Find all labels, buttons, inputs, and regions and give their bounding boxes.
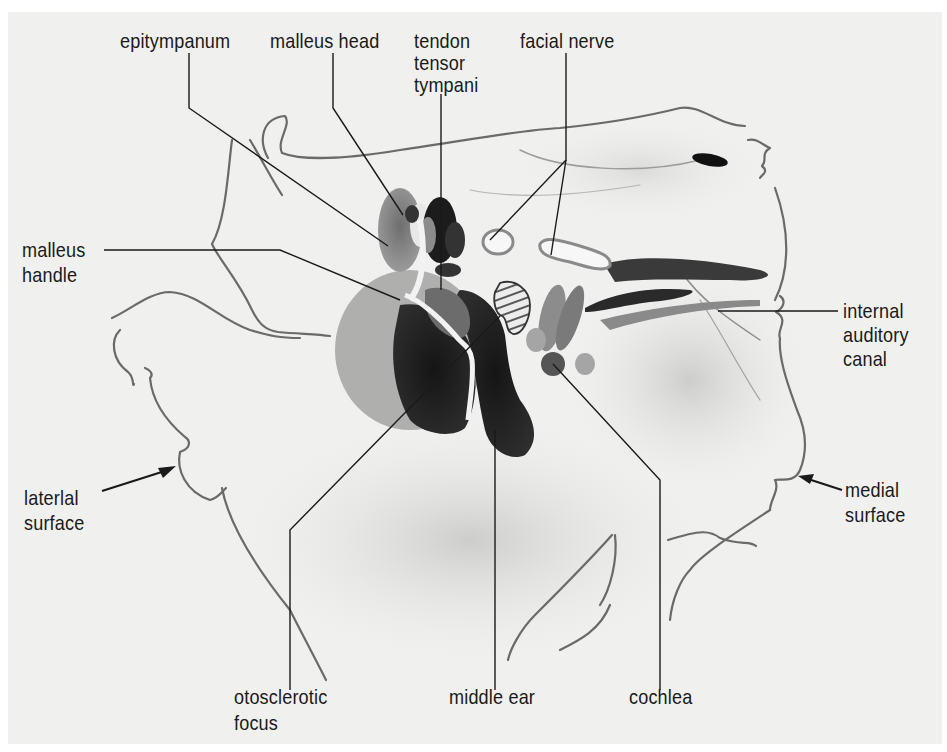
label-internal-auditory-canal-line3: canal [843, 348, 887, 370]
label-epitympanum: epitympanum [120, 30, 230, 52]
label-otosclerotic-focus-line1: otosclerotic [234, 686, 327, 708]
anatomy-figure: epitympanum malleus head tendon tensor t… [0, 0, 947, 752]
label-malleus-handle-line2: handle [22, 264, 77, 286]
arrow-medial-surface [798, 474, 842, 490]
facial-nerve-sections [483, 230, 610, 269]
label-malleus-handle-line1: malleus [22, 239, 85, 261]
temporal-bone-illustration [0, 0, 947, 752]
label-lateral-surface-line2: surface [24, 512, 84, 534]
label-facial-nerve: facial nerve [520, 30, 614, 52]
label-tendon-line2: tensor [414, 52, 465, 74]
label-lateral-surface-line1: laterlal [24, 487, 79, 509]
arrow-lateral-surface [102, 466, 176, 491]
label-medial-surface-line1: medial [845, 479, 899, 501]
label-cochlea: cochlea [629, 686, 692, 708]
label-tendon-line3: tympani [414, 74, 478, 96]
label-tendon-line1: tendon [414, 30, 470, 52]
label-internal-auditory-canal-line2: auditory [843, 324, 909, 346]
label-middle-ear: middle ear [449, 686, 535, 708]
bone-shading [240, 120, 810, 660]
label-malleus-head: malleus head [270, 30, 380, 52]
label-medial-surface-line2: surface [845, 504, 905, 526]
label-internal-auditory-canal-line1: internal [843, 300, 904, 322]
label-otosclerotic-focus-line2: focus [234, 712, 278, 734]
